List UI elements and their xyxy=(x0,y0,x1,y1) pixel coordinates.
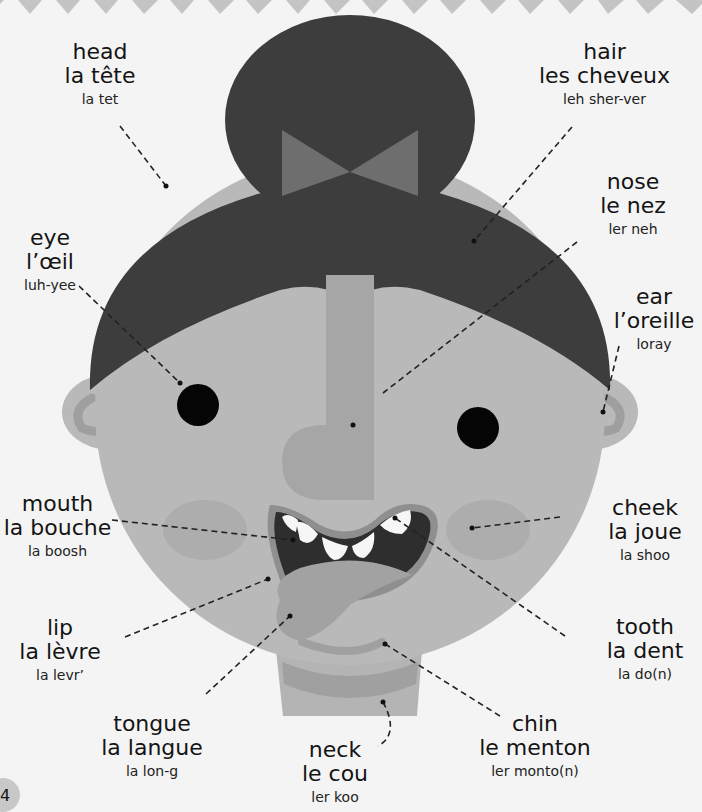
label-french: la tête xyxy=(40,64,160,88)
label-pronunciation: luh-yee xyxy=(10,278,90,293)
label-ear: ear l’oreille loray xyxy=(594,285,702,352)
label-pronunciation: ler monto(n) xyxy=(470,764,600,779)
label-english: head xyxy=(40,40,160,64)
label-chin: chin le menton ler monto(n) xyxy=(470,712,600,779)
label-english: chin xyxy=(470,712,600,736)
label-english: tooth xyxy=(590,615,700,639)
label-pronunciation: ler koo xyxy=(285,790,385,805)
label-mouth: mouth la bouche la boosh xyxy=(0,492,115,559)
zigzag-border xyxy=(0,0,702,14)
label-english: neck xyxy=(285,738,385,762)
label-tooth: tooth la dent la do(n) xyxy=(590,615,700,682)
label-english: hair xyxy=(512,40,697,64)
label-english: lip xyxy=(10,616,110,640)
label-english: ear xyxy=(594,285,702,309)
label-english: nose xyxy=(568,170,698,194)
label-tongue: tongue la langue la lon-g xyxy=(92,712,212,779)
label-english: eye xyxy=(10,226,90,250)
label-head: head la tête la tet xyxy=(40,40,160,107)
label-french: l’oreille xyxy=(594,309,702,333)
label-french: l’œil xyxy=(10,250,90,274)
label-english: mouth xyxy=(0,492,115,516)
label-nose: nose le nez ler neh xyxy=(568,170,698,237)
label-eye: eye l’œil luh-yee xyxy=(10,226,90,293)
label-french: les cheveux xyxy=(512,64,697,88)
label-pronunciation: la do(n) xyxy=(590,667,700,682)
label-french: la lèvre xyxy=(10,640,110,664)
label-pronunciation: la levr’ xyxy=(10,668,110,683)
label-french: la bouche xyxy=(0,516,115,540)
label-pronunciation: la tet xyxy=(40,92,160,107)
label-pronunciation: loray xyxy=(594,337,702,352)
page-number: 4 xyxy=(0,786,10,805)
label-french: la joue xyxy=(590,520,700,544)
label-french: le cou xyxy=(285,762,385,786)
label-pronunciation: leh sher-ver xyxy=(512,92,697,107)
label-hair: hair les cheveux leh sher-ver xyxy=(512,40,697,107)
eye-right xyxy=(457,407,499,449)
eye-left xyxy=(177,384,219,426)
label-pronunciation: la shoo xyxy=(590,548,700,563)
label-lip: lip la lèvre la levr’ xyxy=(10,616,110,683)
label-english: cheek xyxy=(590,496,700,520)
label-cheek: cheek la joue la shoo xyxy=(590,496,700,563)
label-pronunciation: ler neh xyxy=(568,222,698,237)
cheek-right xyxy=(446,500,530,560)
label-neck: neck le cou ler koo xyxy=(285,738,385,805)
label-english: tongue xyxy=(92,712,212,736)
label-pronunciation: la boosh xyxy=(0,544,115,559)
label-french: la dent xyxy=(590,639,700,663)
label-pronunciation: la lon-g xyxy=(92,764,212,779)
label-french: la langue xyxy=(92,736,212,760)
label-french: le menton xyxy=(470,736,600,760)
label-french: le nez xyxy=(568,194,698,218)
